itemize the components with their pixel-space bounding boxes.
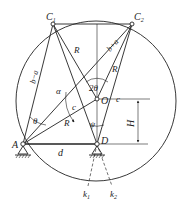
label-psi: ψ (90, 120, 96, 129)
link-a-c1 (23, 24, 53, 144)
label-c1: C1 (46, 11, 56, 23)
label-d-length: d (58, 147, 64, 158)
dashed-d-k1 (88, 144, 97, 186)
ground-support-a (18, 146, 28, 154)
label-c-right: c (116, 94, 120, 104)
label-r-upper-left: R (73, 45, 80, 55)
label-a: A (11, 139, 19, 150)
center-o (95, 97, 99, 101)
joint-c2 (130, 22, 134, 26)
ground-support-d (92, 146, 102, 154)
label-k2: k2 (110, 189, 117, 200)
label-r-lower: R (63, 118, 70, 128)
label-k1: k1 (83, 189, 90, 200)
radius-c2-o (97, 24, 132, 99)
label-c-left: c (72, 102, 76, 112)
label-two-theta: 2θ (89, 83, 99, 93)
label-d: D (100, 135, 109, 146)
label-o: O (101, 95, 108, 106)
label-alpha: α (56, 86, 61, 96)
label-theta-lower: θ (33, 116, 38, 126)
label-r-upper-right: R (111, 64, 118, 74)
label-h: H (125, 119, 136, 128)
label-c2: C2 (134, 11, 144, 23)
linkage-diagram: C1 C2 O A D k1 k2 b−a b+a R R R α 2θ θ ψ… (0, 0, 184, 204)
